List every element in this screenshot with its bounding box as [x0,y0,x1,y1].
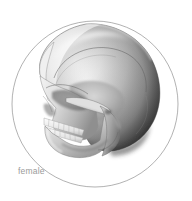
sex-label: female [18,166,45,176]
skull-lateral-view [39,22,180,164]
skull-figure: female [0,0,192,201]
skull-illustration: female [0,0,192,201]
auditory-meatus [105,110,112,115]
